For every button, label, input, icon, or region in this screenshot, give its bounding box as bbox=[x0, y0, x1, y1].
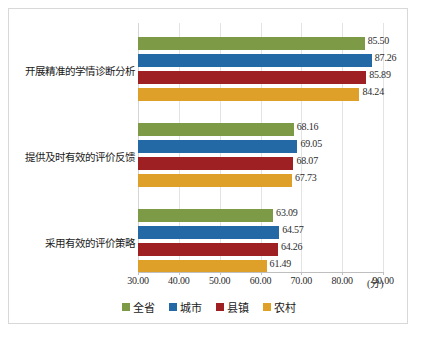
legend-label: 城市 bbox=[180, 299, 202, 315]
bar[interactable] bbox=[138, 71, 366, 84]
bar-value-label: 67.73 bbox=[295, 172, 317, 183]
bar[interactable] bbox=[138, 54, 372, 67]
bar-value-label: 61.49 bbox=[270, 258, 292, 269]
chart-frame: 85.5087.2685.8984.2468.1669.0568.0767.73… bbox=[8, 8, 408, 324]
x-tick-label: 90.00 bbox=[372, 275, 394, 286]
category-axis-labels: 开展精准的学情诊断分析提供及时有效的评价反馈采用有效的评价策略 bbox=[9, 23, 135, 272]
legend-label: 县镇 bbox=[227, 299, 249, 315]
bar-value-label: 64.26 bbox=[281, 241, 303, 252]
bar-row: 68.16 bbox=[138, 123, 383, 136]
bar-value-label: 87.26 bbox=[375, 52, 397, 63]
x-tick-label: 60.00 bbox=[250, 275, 272, 286]
bar[interactable] bbox=[138, 37, 365, 50]
bar-value-label: 68.07 bbox=[296, 155, 318, 166]
category-label: 采用有效的评价策略 bbox=[11, 235, 135, 250]
legend-item[interactable]: 全省 bbox=[122, 299, 155, 315]
bar-value-label: 68.16 bbox=[297, 121, 319, 132]
x-tick-label: 30.00 bbox=[127, 275, 149, 286]
x-tick-label: 50.00 bbox=[209, 275, 231, 286]
bar-row: 68.07 bbox=[138, 157, 383, 170]
bar-group: 85.5087.2685.8984.24 bbox=[138, 37, 383, 105]
bar-row: 63.09 bbox=[138, 209, 383, 222]
bar-row: 64.26 bbox=[138, 243, 383, 256]
bar-value-label: 84.24 bbox=[362, 86, 384, 97]
bar-row: 69.05 bbox=[138, 140, 383, 153]
x-tick-label: 80.00 bbox=[331, 275, 353, 286]
bar-row: 64.57 bbox=[138, 226, 383, 239]
legend-swatch-icon bbox=[169, 303, 177, 311]
bar-value-label: 63.09 bbox=[276, 207, 298, 218]
bar[interactable] bbox=[138, 243, 278, 256]
bar-row: 85.89 bbox=[138, 71, 383, 84]
bar[interactable] bbox=[138, 157, 293, 170]
category-label: 提供及时有效的评价反馈 bbox=[11, 149, 135, 164]
category-label: 开展精准的学情诊断分析 bbox=[11, 63, 135, 78]
bar[interactable] bbox=[138, 226, 279, 239]
legend-label: 农村 bbox=[274, 299, 296, 315]
x-axis-tick-labels: (分) 30.0040.0050.0060.0070.0080.0090.00 bbox=[9, 275, 409, 291]
bar[interactable] bbox=[138, 209, 273, 222]
bar-value-label: 85.89 bbox=[369, 69, 391, 80]
legend-item[interactable]: 县镇 bbox=[216, 299, 249, 315]
bar-row: 85.50 bbox=[138, 37, 383, 50]
bar[interactable] bbox=[138, 140, 297, 153]
legend-item[interactable]: 城市 bbox=[169, 299, 202, 315]
bar[interactable] bbox=[138, 174, 292, 187]
bar-row: 67.73 bbox=[138, 174, 383, 187]
bar-group: 68.1669.0568.0767.73 bbox=[138, 123, 383, 191]
bar-group: 63.0964.5764.2661.49 bbox=[138, 209, 383, 277]
legend-swatch-icon bbox=[216, 303, 224, 311]
bar[interactable] bbox=[138, 88, 359, 101]
legend-item[interactable]: 农村 bbox=[263, 299, 296, 315]
bar-value-label: 85.50 bbox=[368, 35, 390, 46]
plot-area: 85.5087.2685.8984.2468.1669.0568.0767.73… bbox=[138, 23, 383, 272]
chart-legend: 全省城市县镇农村 bbox=[9, 299, 409, 315]
bar-row: 84.24 bbox=[138, 88, 383, 101]
legend-swatch-icon bbox=[122, 303, 130, 311]
legend-swatch-icon bbox=[263, 303, 271, 311]
bar-row: 87.26 bbox=[138, 54, 383, 67]
bar-value-label: 69.05 bbox=[300, 138, 322, 149]
legend-label: 全省 bbox=[133, 299, 155, 315]
x-tick-label: 40.00 bbox=[168, 275, 190, 286]
x-tick-label: 70.00 bbox=[291, 275, 313, 286]
bar-value-label: 64.57 bbox=[282, 224, 304, 235]
bar[interactable] bbox=[138, 123, 294, 136]
